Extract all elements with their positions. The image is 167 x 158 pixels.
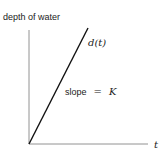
equals-sign: = [94, 86, 102, 97]
slope-annotation: slope = K [65, 81, 117, 98]
slope-word: slope [65, 87, 87, 97]
slope-symbol: K [108, 86, 117, 97]
diagram-canvas: depth of water d(t) slope = K t [0, 0, 167, 158]
series-label: d(t) [88, 37, 106, 48]
series-line-d-of-t [29, 28, 88, 144]
x-axis-label: t [154, 139, 159, 150]
y-axis-label: depth of water [3, 12, 60, 22]
